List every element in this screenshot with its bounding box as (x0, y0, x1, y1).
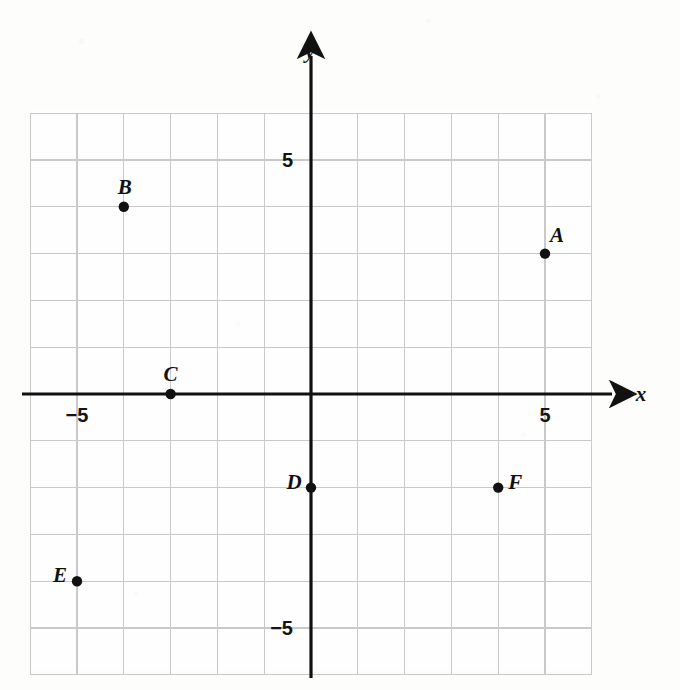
point-label-b: B (117, 175, 132, 199)
coordinate-plane-figure: x y −555−5 ABCDEF (0, 0, 680, 690)
coordinate-plane-svg: x y −555−5 ABCDEF (0, 0, 680, 690)
x-tick-label: 5 (539, 404, 550, 426)
plot-point-f[interactable] (493, 482, 503, 492)
x-tick-label: −5 (66, 404, 89, 426)
y-axis-label: y (302, 39, 315, 63)
point-label-e: E (52, 563, 67, 587)
plot-point-b[interactable] (119, 202, 129, 212)
point-label-d: D (285, 470, 301, 494)
plot-point-e[interactable] (72, 576, 82, 586)
y-tick-label: 5 (282, 149, 293, 171)
point-label-a: A (548, 223, 564, 247)
point-label-c: C (164, 362, 179, 386)
point-label-f: F (507, 470, 522, 494)
plot-point-c[interactable] (165, 389, 175, 399)
plot-point-a[interactable] (540, 248, 550, 258)
x-axis-label: x (635, 382, 647, 406)
plot-point-d[interactable] (306, 482, 316, 492)
y-tick-label: −5 (270, 617, 293, 639)
